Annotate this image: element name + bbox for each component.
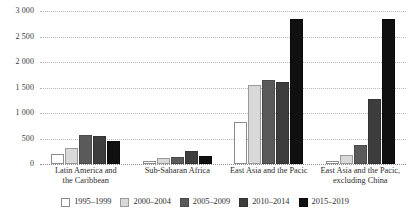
category-label: Latin America andthe Caribbean [34,166,138,185]
category-label: Sub-Saharan Africa [126,166,230,176]
bar [79,135,92,164]
legend-item[interactable]: 2005–2009 [180,198,230,207]
bar [276,82,289,164]
bar [65,148,78,164]
y-tick-label-1000: 1 000 [0,109,34,117]
category-label-line: excluding China [309,176,410,186]
bar [171,157,184,164]
bar [107,141,120,164]
y-tick-label-3000: 3 000 [0,7,34,15]
bar [354,145,367,164]
legend-swatch-icon [239,198,248,207]
legend-label: 1995–1999 [74,198,111,206]
bar [51,154,64,164]
legend-item[interactable]: 1995–1999 [61,198,111,207]
category-label-line: Sub-Saharan Africa [126,166,230,176]
legend-swatch-icon [299,198,308,207]
legend-label: 2015–2019 [312,198,349,206]
bar [382,19,395,164]
bar [143,161,156,164]
bar-group [51,8,120,164]
legend-swatch-icon [120,198,129,207]
legend-item[interactable]: 2010–2014 [239,198,289,207]
category-label-line: East Asia and the Pacic [217,166,321,176]
bar-chart: 05001 0001 5002 0002 5003 000 Latin Amer… [0,0,410,221]
legend-item[interactable]: 2000–2004 [120,198,170,207]
bar [368,99,381,164]
legend-swatch-icon [61,198,70,207]
bar [234,122,247,164]
bar [185,151,198,164]
y-tick-label-2000: 2 000 [0,58,34,66]
x-axis-category-labels: Latin America andthe CaribbeanSub-Sahara… [40,166,406,190]
bar [93,136,106,164]
legend: 1995–19992000–20042005–20092010–20142015… [0,198,410,207]
bar-group [143,8,212,164]
legend-label: 2005–2009 [193,198,230,206]
y-tick-label-0: 0 [0,160,34,168]
bar [290,19,303,164]
bar [262,80,275,164]
y-tick-label-1500: 1 500 [0,84,34,92]
y-tick-label-2500: 2 500 [0,33,34,41]
legend-label: 2010–2014 [252,198,289,206]
category-label-line: East Asia and the Pacic, [309,166,410,176]
category-label-line: the Caribbean [34,176,138,186]
category-label: East Asia and the Pacic,excluding China [309,166,410,185]
gridline-0 [40,164,406,165]
bars-layer [40,8,406,164]
plot-area: 05001 0001 5002 0002 5003 000 [40,8,406,164]
legend-label: 2000–2004 [133,198,170,206]
legend-item[interactable]: 2015–2019 [299,198,349,207]
category-label: East Asia and the Pacic [217,166,321,176]
category-label-line: Latin America and [34,166,138,176]
bar [340,155,353,164]
bar [157,158,170,164]
bar [248,85,261,164]
bar [199,156,212,164]
bar-group [234,8,303,164]
y-tick-label-500: 500 [0,135,34,143]
bar [326,161,339,164]
legend-swatch-icon [180,198,189,207]
bar-group [326,8,395,164]
